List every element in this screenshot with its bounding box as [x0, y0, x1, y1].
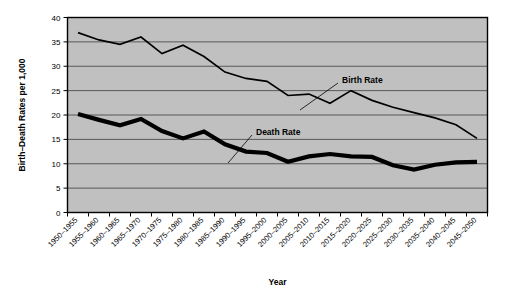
- y-tick-label: 15: [52, 135, 61, 144]
- annotation-label-death-rate: Death Rate: [256, 127, 301, 137]
- y-tick-label: 5: [56, 184, 61, 193]
- y-tick-label: 0: [56, 209, 61, 218]
- chart-container: 0510152025303540 1950–19551955–19601960–…: [0, 0, 511, 292]
- annotation-label-birth-rate: Birth Rate: [342, 75, 383, 85]
- y-tick-label: 20: [52, 111, 61, 120]
- x-axis-title: Year: [269, 277, 288, 287]
- y-tick-label: 10: [52, 160, 61, 169]
- y-tick-label: 25: [52, 87, 61, 96]
- y-tick-label: 40: [52, 14, 61, 23]
- y-axis-title: Birth–Death Rates per 1,000: [17, 58, 27, 171]
- y-tick-label: 35: [52, 38, 61, 47]
- y-tick-label: 30: [52, 62, 61, 71]
- birth-death-rate-line-chart: 0510152025303540 1950–19551955–19601960–…: [0, 0, 511, 292]
